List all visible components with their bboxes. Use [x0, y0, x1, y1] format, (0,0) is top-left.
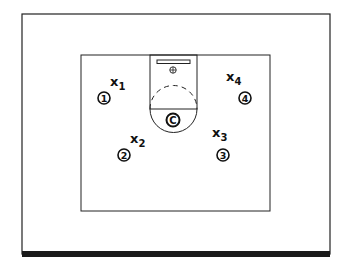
defensive-player-x4: x4: [226, 69, 241, 87]
player-number: 1: [101, 93, 108, 104]
basket-icon: [170, 67, 176, 73]
free-throw-circle-dashed: [150, 85, 197, 109]
offensive-player-3: 3: [217, 149, 229, 161]
player-number: 3: [220, 150, 227, 161]
offensive-player-4: 4: [239, 92, 251, 104]
defender-number: 4: [234, 76, 241, 87]
offensive-player-1: 1: [98, 92, 110, 104]
frame-bottom-bar: [22, 251, 330, 257]
backboard: [157, 60, 190, 64]
defensive-player-x3: x3: [212, 125, 227, 143]
offensive-player-2: 2: [118, 149, 130, 161]
defender-number: 1: [118, 81, 125, 92]
defensive-player-x2: x2: [130, 131, 145, 149]
offensive-player-c: C: [167, 114, 180, 127]
diagram-canvas: 1234C x1x2x3x4: [0, 0, 347, 274]
player-number: C: [169, 115, 176, 126]
defender-number: 3: [220, 132, 227, 143]
outer-frame: [22, 14, 330, 254]
player-number: 2: [121, 150, 128, 161]
defensive-player-x1: x1: [110, 74, 125, 92]
player-number: 4: [242, 93, 249, 104]
defender-number: 2: [138, 138, 145, 149]
